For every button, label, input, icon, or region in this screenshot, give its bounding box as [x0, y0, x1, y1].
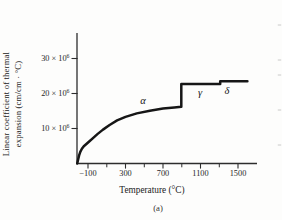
y-tick-label: 20 × 106	[41, 88, 69, 98]
x-tick-label: 300	[119, 169, 131, 178]
x-tick-label: 1100	[192, 169, 208, 178]
y-axis-title-line2: expansion (cm/cm · °C)	[13, 29, 25, 179]
y-axis-title-line1: Linear coefficient of thermal	[1, 29, 13, 179]
x-tick-label: −100	[79, 169, 96, 178]
y-tick-exponent: 6	[67, 53, 70, 59]
phase-label-alpha: α	[140, 95, 146, 106]
y-tick-exponent: 6	[67, 88, 70, 94]
phase-label-gamma: γ	[198, 87, 203, 98]
y-tick-label: 10 × 106	[41, 123, 69, 133]
expansion-curve	[77, 81, 247, 163]
x-axis-title: Temperature (°C)	[82, 185, 222, 195]
y-tick-label: 30 × 106	[41, 53, 69, 63]
y-tick-exponent: 6	[67, 123, 70, 129]
y-axis-title: Linear coefficient of thermal expansion …	[1, 29, 27, 179]
thermal-expansion-figure: −1003007001100150030 × 10620 × 10610 × 1…	[0, 0, 282, 220]
x-tick-label: 700	[157, 169, 169, 178]
x-tick-label: 1500	[230, 169, 247, 178]
figure-caption: (a)	[118, 203, 198, 213]
phase-label-delta: δ	[225, 85, 231, 96]
